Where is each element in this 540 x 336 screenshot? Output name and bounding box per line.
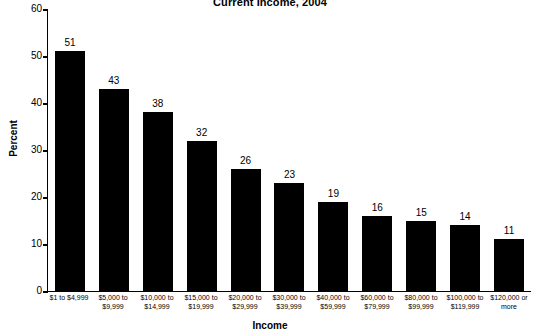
- y-tick-mark: [43, 291, 48, 293]
- y-tick-label: 60: [20, 3, 42, 14]
- bar-column: 32: [187, 10, 217, 291]
- bar-column: 51: [55, 10, 85, 291]
- x-tick-label: $40,000 to$59,999: [311, 294, 355, 318]
- bar-column: 38: [143, 10, 173, 291]
- bar: [362, 216, 392, 291]
- plot-area: 0102030405060 5143383226231916151411: [47, 10, 531, 292]
- bar-value-label: 51: [47, 37, 93, 48]
- bar-value-label: 23: [266, 169, 312, 180]
- y-tick-label: 30: [20, 144, 42, 155]
- x-tick-label: $30,000 to$39,999: [267, 294, 311, 318]
- bar-column: 15: [406, 10, 436, 291]
- bar-column: 26: [231, 10, 261, 291]
- bar-column: 19: [318, 10, 348, 291]
- bar-value-label: 43: [91, 75, 137, 86]
- bar: [231, 169, 261, 291]
- y-tick-label: 10: [20, 238, 42, 249]
- x-tick-label: $5,000 to$9,999: [91, 294, 135, 318]
- x-tick-label: $15,000 to$19,999: [179, 294, 223, 318]
- bar-column: 23: [274, 10, 304, 291]
- x-tick-label: $1 to $4,999: [47, 294, 91, 318]
- x-tick-label: $20,000 to$29,999: [223, 294, 267, 318]
- bar-series: 5143383226231916151411: [48, 10, 531, 291]
- x-tick-label: $120,000 ormore: [487, 294, 531, 318]
- bar-column: 16: [362, 10, 392, 291]
- x-tick-label: $80,000 to$99,999: [399, 294, 443, 318]
- bar: [318, 202, 348, 291]
- y-tick-label: 40: [20, 97, 42, 108]
- bar: [143, 112, 173, 291]
- x-tick-label: $100,000 to$119,999: [443, 294, 487, 318]
- y-axis-label: Percent: [8, 99, 19, 179]
- y-tick-label: 0: [20, 285, 42, 296]
- y-tick-label: 50: [20, 50, 42, 61]
- bar-value-label: 16: [354, 202, 400, 213]
- bar: [187, 141, 217, 291]
- bar-column: 43: [99, 10, 129, 291]
- bar: [99, 89, 129, 291]
- bar-value-label: 32: [179, 127, 225, 138]
- bar-value-label: 19: [310, 188, 356, 199]
- bar: [274, 183, 304, 291]
- bar-value-label: 15: [398, 207, 444, 218]
- bar-chart: Current Income, 2004 Percent 01020304050…: [0, 0, 540, 336]
- bar-column: 14: [450, 10, 480, 291]
- x-axis-label: Income: [0, 320, 540, 331]
- bar: [406, 221, 436, 292]
- bar: [450, 225, 480, 291]
- bar-value-label: 14: [442, 211, 488, 222]
- x-axis-tick-labels: $1 to $4,999$5,000 to$9,999$10,000 to$14…: [47, 294, 531, 318]
- bar: [494, 239, 524, 291]
- bar: [55, 51, 85, 291]
- x-tick-label: $60,000 to$79,999: [355, 294, 399, 318]
- y-tick-label: 20: [20, 191, 42, 202]
- x-tick-label: $10,000 to$14,999: [135, 294, 179, 318]
- bar-column: 11: [494, 10, 524, 291]
- chart-title: Current Income, 2004: [0, 0, 540, 8]
- bar-value-label: 11: [486, 225, 532, 236]
- bar-value-label: 26: [223, 155, 269, 166]
- bar-value-label: 38: [135, 98, 181, 109]
